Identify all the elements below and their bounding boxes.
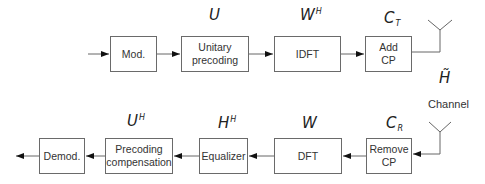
symbol-W: W xyxy=(302,114,317,132)
remove-cp-label: RemoveCP xyxy=(369,143,408,169)
precoding-compensation-label: Precodingcompensation xyxy=(106,143,171,169)
dft-block: DFT xyxy=(274,138,342,174)
symbol-U: U xyxy=(209,6,220,24)
demod-block: Demod. xyxy=(39,138,85,174)
mod-block: Mod. xyxy=(110,36,157,72)
add-cp-label: AddCP xyxy=(379,41,398,67)
demod-label: Demod. xyxy=(44,150,81,163)
symbol-U-hermitian: UH xyxy=(127,112,145,130)
idft-label: IDFT xyxy=(296,48,319,61)
remove-cp-block: RemoveCP xyxy=(366,138,412,174)
unitary-precoding-block: Unitaryprecoding xyxy=(181,36,249,72)
symbol-C-R: CR xyxy=(386,114,403,133)
mod-label: Mod. xyxy=(122,48,145,61)
equalizer-label: Equalizer xyxy=(202,150,246,163)
precoding-compensation-block: Precodingcompensation xyxy=(105,138,173,174)
symbol-C-T: CT xyxy=(384,9,400,28)
symbol-W-hermitian: WH xyxy=(300,6,322,24)
dft-label: DFT xyxy=(298,150,318,163)
symbol-H-tilde: H̃ xyxy=(439,69,450,87)
symbol-H-hermitian: HH xyxy=(218,114,236,132)
equalizer-block: Equalizer xyxy=(199,138,248,174)
channel-label: Channel xyxy=(428,98,469,110)
add-cp-block: AddCP xyxy=(365,36,412,72)
idft-block: IDFT xyxy=(274,36,341,72)
unitary-precoding-label: Unitaryprecoding xyxy=(192,41,238,67)
